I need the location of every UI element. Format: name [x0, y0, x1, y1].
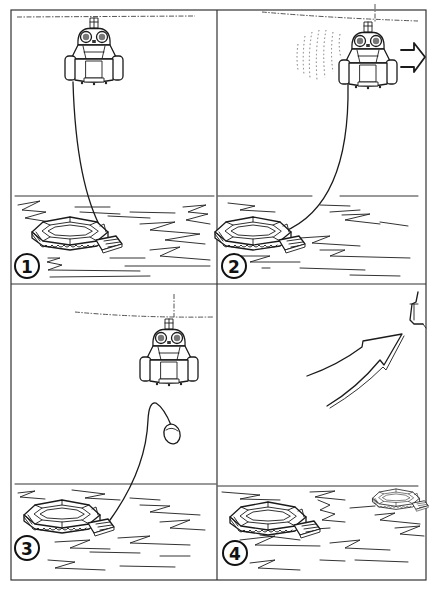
departing-helicopter-icon	[410, 292, 426, 328]
helicopter-icon	[339, 22, 397, 89]
step-number-badge: 3	[15, 536, 39, 560]
life-raft-icon	[230, 502, 320, 538]
step-number-badge: 2	[222, 254, 246, 278]
step-number: 3	[21, 539, 33, 559]
step-number: 1	[21, 257, 33, 277]
life-raft-icon	[24, 500, 114, 536]
panel-4: 4	[218, 292, 428, 570]
rescue-pod-icon	[162, 422, 183, 445]
released-cable	[110, 403, 171, 520]
rotor-blur	[17, 16, 195, 17]
panel-3: 3	[15, 294, 216, 570]
helicopter-icon	[65, 18, 123, 85]
departure-arrow-icon	[307, 334, 404, 408]
helicopter-icon	[140, 319, 198, 386]
tow-cable	[283, 84, 348, 232]
rotor-wash-spray	[297, 30, 341, 80]
step-number-badge: 4	[223, 541, 247, 565]
direction-arrow-right-icon	[401, 43, 425, 72]
step-number-badge: 1	[15, 254, 39, 278]
tow-cable	[73, 82, 103, 232]
life-raft-icon	[215, 217, 305, 253]
distant-life-raft-icon	[372, 489, 428, 511]
step-number: 2	[228, 257, 240, 277]
rotor-blur	[262, 12, 418, 21]
step-number: 4	[229, 544, 241, 564]
rotor-blur	[75, 312, 213, 317]
panel-2: 2	[215, 4, 425, 278]
life-raft-icon	[32, 217, 122, 253]
panel-1: 1	[15, 16, 214, 278]
four-panel-illustration: 1	[0, 0, 437, 589]
